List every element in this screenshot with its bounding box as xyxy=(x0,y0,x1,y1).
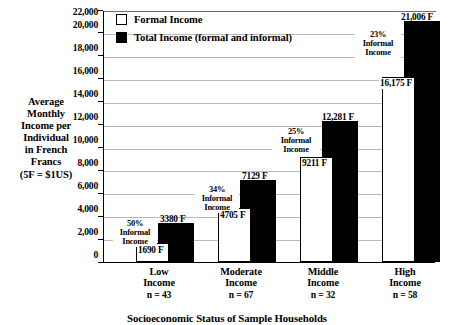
informal-word-1: Informal xyxy=(272,136,320,145)
legend-label: Total Income (formal and informal) xyxy=(134,32,292,43)
informal-pct: 23% xyxy=(355,30,401,39)
bar-chart: Average Monthly Income per Individual in… xyxy=(0,0,454,325)
category-sample-size: n = 32 xyxy=(277,289,369,300)
y-tick-label-18000: 18,000 xyxy=(52,43,98,53)
category-sample-size: n = 58 xyxy=(359,289,451,300)
open-square-icon xyxy=(116,14,127,25)
filled-square-icon xyxy=(116,32,127,43)
informal-note-middle-income: 25% Informal Income xyxy=(272,127,320,155)
legend-item-formal-income[interactable]: Formal Income xyxy=(116,14,292,25)
informal-word-1: Informal xyxy=(355,39,401,48)
value-label-total-high-income: 21,006 F xyxy=(401,13,433,22)
bar-formal-high-income[interactable] xyxy=(382,77,415,262)
y-tick-label-10000: 10,000 xyxy=(52,135,98,145)
informal-pct: 34% xyxy=(195,185,239,194)
legend: Formal Income Total Income (formal and i… xyxy=(116,14,292,50)
category-name-line: Income xyxy=(359,277,451,288)
informal-word-2: Income xyxy=(272,145,320,154)
y-tick-label-12000: 12,000 xyxy=(52,112,98,122)
informal-pct: 50% xyxy=(113,219,157,228)
value-label-total-moderate-income: 7129 F xyxy=(242,172,267,181)
category-sample-size: n = 67 xyxy=(195,289,287,300)
x-axis-title: Socioeconomic Status of Sample Household… xyxy=(0,312,454,324)
y-tick-label-0: 0 xyxy=(52,250,98,260)
category-name-line: Low xyxy=(113,266,205,277)
category-name-line: Income xyxy=(277,277,369,288)
x-category-label-high-income: High Income n = 58 xyxy=(359,266,451,300)
x-category-label-low-income: Low Income n = 43 xyxy=(113,266,205,300)
legend-label: Formal Income xyxy=(134,14,202,25)
value-label-formal-low-income: 1690 F xyxy=(137,245,164,256)
y-axis-title-line: (5F = $1US) xyxy=(0,169,92,181)
category-sample-size: n = 43 xyxy=(113,289,205,300)
informal-note-low-income: 50% Informal Income xyxy=(113,219,157,247)
y-tick-label-16000: 16,000 xyxy=(52,66,98,76)
y-tick-label-22000: 22,000 xyxy=(52,7,98,17)
informal-note-moderate-income: 34% Informal Income xyxy=(195,185,239,213)
value-label-total-low-income: 3380 F xyxy=(160,215,185,224)
y-tick-label-4000: 4,000 xyxy=(52,204,98,214)
y-tick-label-20000: 20,000 xyxy=(52,20,98,30)
value-label-formal-middle-income: 9211 F xyxy=(301,158,328,169)
x-category-label-moderate-income: Moderate Income n = 67 xyxy=(195,266,287,300)
value-label-total-middle-income: 12,281 F xyxy=(322,113,354,122)
y-tick-label-6000: 6,000 xyxy=(52,181,98,191)
bar-formal-middle-income[interactable] xyxy=(300,157,333,263)
value-label-formal-moderate-income: 4705 F xyxy=(219,210,246,221)
category-name-line: Middle xyxy=(277,266,369,277)
category-name-line: Income xyxy=(113,277,205,288)
y-tick-label-8000: 8,000 xyxy=(52,158,98,168)
y-axis-title-line: in French xyxy=(0,144,92,156)
informal-pct: 25% xyxy=(272,127,320,136)
informal-word-1: Informal xyxy=(113,228,157,237)
informal-word-2: Income xyxy=(355,48,401,57)
category-name-line: Moderate xyxy=(195,266,287,277)
y-tick-label-2000: 2,000 xyxy=(52,227,98,237)
gridline-22000 xyxy=(104,11,436,12)
informal-word-1: Informal xyxy=(195,194,239,203)
category-name-line: Income xyxy=(195,277,287,288)
x-category-label-middle-income: Middle Income n = 32 xyxy=(277,266,369,300)
y-axis-title-line: Income per xyxy=(0,120,92,132)
value-label-formal-high-income: 16,175 F xyxy=(379,78,413,89)
category-name-line: High xyxy=(359,266,451,277)
informal-note-high-income: 23% Informal Income xyxy=(355,30,401,58)
legend-item-total-income[interactable]: Total Income (formal and informal) xyxy=(116,32,292,43)
y-tick-label-14000: 14,000 xyxy=(52,89,98,99)
